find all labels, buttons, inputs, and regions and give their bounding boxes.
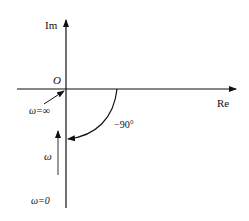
omega-direction-label: ω bbox=[44, 150, 52, 162]
real-axis-label: Re bbox=[217, 97, 229, 109]
omega-infinity-label: ω=∞ bbox=[29, 105, 50, 116]
angle-label: −90° bbox=[114, 119, 134, 130]
imaginary-axis-label: Im bbox=[45, 19, 58, 31]
origin-label: O bbox=[53, 74, 61, 86]
nyquist-diagram: Im O Re ω=∞ −90° ω ω=0 bbox=[0, 0, 249, 221]
omega-infinity-leader bbox=[44, 91, 64, 104]
nyquist-curve bbox=[68, 89, 117, 139]
omega-zero-label: ω=0 bbox=[31, 195, 50, 206]
